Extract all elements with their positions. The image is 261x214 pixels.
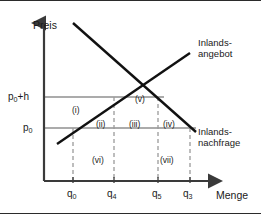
economics-diagram: Preis Menge Inlands- angebot Inlands- na… xyxy=(0,0,261,214)
region-label-iii: (iii) xyxy=(129,120,140,130)
q3-subscript: 3 xyxy=(189,192,193,201)
region-label-ii: (ii) xyxy=(96,120,105,130)
x-tick-label-q4: q4 xyxy=(107,188,117,201)
p0h-suffix: +h xyxy=(18,91,29,102)
demand-label-line1: Inlands- xyxy=(198,126,232,137)
q0-subscript: 0 xyxy=(73,192,77,201)
supply-label-line1: Inlands- xyxy=(198,37,232,48)
y-axis-title: Preis xyxy=(33,20,57,32)
x-tick-label-q3: q3 xyxy=(183,188,193,201)
supply-curve-label: Inlands- angebot xyxy=(198,38,232,59)
q4-subscript: 4 xyxy=(113,192,117,201)
plot-canvas xyxy=(0,1,261,214)
supply-label-line2: angebot xyxy=(198,48,232,59)
x-tick-label-q0: q0 xyxy=(67,188,77,201)
region-label-iv: (iv) xyxy=(163,120,175,130)
x-axis-title: Menge xyxy=(216,190,248,202)
x-tick-label-q5: q5 xyxy=(152,188,162,201)
region-label-i: (i) xyxy=(72,106,80,116)
p0-subscript: 0 xyxy=(29,126,33,135)
price-label-p0: p0 xyxy=(23,122,33,135)
demand-curve xyxy=(73,23,196,132)
price-label-p0-plus-h: p0+h xyxy=(8,91,29,104)
demand-label-line2: nachfrage xyxy=(198,137,240,148)
region-label-vi: (vi) xyxy=(92,156,104,166)
region-label-v: (v) xyxy=(135,95,145,105)
q5-subscript: 5 xyxy=(158,192,162,201)
region-label-vii: (vii) xyxy=(160,156,174,166)
demand-curve-label: Inlands- nachfrage xyxy=(198,127,240,148)
